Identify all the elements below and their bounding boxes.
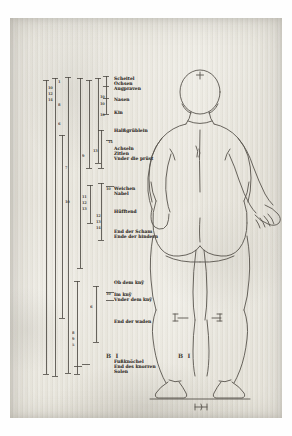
torso-left-outline (149, 124, 186, 202)
scanned-plate-page: 1012141867108959111213613121314101010141… (0, 0, 292, 436)
female-nude-rear-view-figure (10, 18, 282, 418)
thigh-right-outer (244, 236, 250, 310)
knee-right-mark (212, 314, 222, 321)
calf-right-outer (234, 310, 248, 383)
calf-left-inner (193, 320, 195, 376)
ankle-left (169, 380, 181, 382)
head-crown-mark (197, 72, 204, 79)
waist-left (151, 182, 156, 201)
ground-center-mark (195, 404, 207, 410)
neck-base (188, 121, 212, 124)
hip-left (153, 201, 156, 223)
ankle-right (219, 380, 231, 382)
foot-right (213, 382, 244, 398)
paper-plate: 1012141867108959111213613121314101010141… (10, 18, 282, 418)
thigh-right-inner (204, 250, 207, 320)
hip-right (244, 201, 247, 223)
hand-right-palm (255, 205, 280, 225)
spine-line (200, 130, 201, 192)
knee-left-mark (173, 314, 188, 321)
hand-right-fingers (256, 214, 274, 228)
buttock-left (153, 223, 200, 256)
arm-right-outer (238, 138, 273, 205)
thigh-left-inner (193, 250, 196, 320)
foot-left (155, 382, 186, 398)
arm-left-inner (166, 154, 171, 212)
calf-right-inner (207, 320, 209, 376)
calf-left-outer (152, 310, 166, 383)
buttock-right (200, 223, 247, 256)
gluteal-cleft (200, 218, 201, 242)
thigh-left-outer (150, 236, 156, 310)
